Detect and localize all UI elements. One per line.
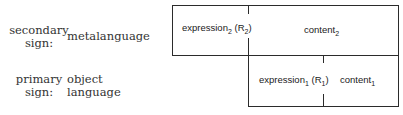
secondary-box-divider-lower	[248, 38, 249, 56]
secondary-box-left-border	[172, 5, 173, 56]
content-1-subscript: 1	[371, 80, 375, 87]
secondary-box-right-border	[398, 5, 399, 107]
primary-sign-label: primary sign:	[2, 73, 76, 99]
expression-2-text: expression	[182, 22, 228, 33]
expression-1-label: expression1 (R1)	[259, 74, 329, 87]
primary-sign-label-line2: sign:	[2, 86, 76, 99]
primary-box-left-border	[248, 55, 249, 107]
secondary-sign-label: secondary sign:	[2, 24, 76, 50]
metalanguage-label: metalanguage	[67, 30, 150, 43]
expression-2-label: expression2 (R2)	[182, 22, 252, 35]
content-2-text: content	[304, 24, 335, 35]
object-language-line2: language	[67, 86, 121, 99]
content-2-label: content2	[304, 24, 339, 37]
primary-box-divider-lower	[323, 94, 324, 107]
secondary-box-top-border	[172, 5, 399, 6]
metalanguage-text: metalanguage	[67, 30, 150, 43]
primary-box-divider-upper	[323, 55, 324, 63]
secondary-box-bottom-border	[172, 55, 399, 56]
secondary-box-divider	[248, 5, 249, 14]
relation-1-open: (R	[309, 74, 322, 85]
content-2-subscript: 2	[335, 30, 339, 37]
content-1-label: content1	[340, 74, 375, 87]
content-1-text: content	[340, 74, 371, 85]
expression-1-text: expression	[259, 74, 305, 85]
secondary-sign-label-line2: sign:	[2, 37, 76, 50]
relation-2-close: )	[248, 22, 251, 33]
relation-1-close: )	[325, 74, 328, 85]
relation-2-open: (R	[232, 22, 245, 33]
object-language-label: object language	[67, 73, 121, 99]
